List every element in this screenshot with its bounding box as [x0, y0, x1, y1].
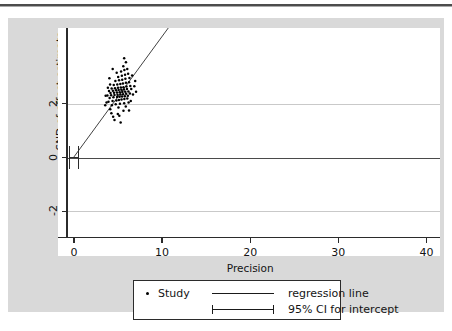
x-tick-mark-0 [73, 238, 74, 243]
study-dot-icon [146, 292, 149, 295]
legend: Study regression line 95% CI for interce… [133, 280, 341, 320]
gridline-y-minus2 [66, 211, 440, 212]
x-tick-mark-30 [338, 238, 339, 243]
gridline-y-2 [66, 104, 440, 105]
top-divider-rule-secondary [0, 6, 452, 7]
regression-line [58, 28, 440, 256]
regression-line-icon [212, 293, 274, 294]
x-tick-mark-20 [250, 238, 251, 243]
plot-canvas [58, 28, 440, 256]
study-points-scatter [58, 28, 440, 256]
x-tick-mark-40 [426, 238, 427, 243]
y-tick-mark-minus2 [62, 211, 67, 212]
x-tick-label-40: 40 [413, 246, 441, 259]
legend-label-ci: 95% CI for intercept [288, 303, 399, 316]
figure-panel: SND of effect estimate 2 0 -2 [8, 18, 444, 312]
x-tick-label-0: 0 [60, 246, 88, 259]
legend-item-ci: 95% CI for intercept [212, 303, 399, 316]
plot-area [58, 28, 440, 256]
x-tick-label-30: 30 [324, 246, 352, 259]
legend-label-regression-line: regression line [288, 287, 369, 300]
ci-intercept-errorbar [69, 146, 79, 169]
y-tick-mark-0 [62, 157, 67, 158]
x-tick-label-20: 20 [236, 246, 264, 259]
x-tick-mark-10 [161, 238, 162, 243]
gridline-y-0 [66, 158, 440, 160]
figure-root: SND of effect estimate 2 0 -2 [0, 0, 452, 331]
legend-item-regression-line: regression line [212, 287, 369, 300]
legend-label-study: Study [158, 287, 190, 300]
y-tick-mark-2 [62, 103, 67, 104]
x-axis-title: Precision [190, 262, 310, 274]
errorbar-icon [212, 305, 274, 314]
legend-item-study: Study [146, 287, 190, 300]
x-tick-label-10: 10 [148, 246, 176, 259]
y-axis-line [66, 28, 68, 238]
